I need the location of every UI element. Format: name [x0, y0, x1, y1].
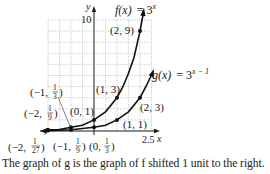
svg-text:1: 1: [48, 104, 52, 113]
svg-text:3: 3: [53, 92, 57, 101]
x-axis-label: x: [156, 133, 162, 144]
point-label-g-2: (2, 3): [140, 101, 164, 114]
svg-text:9: 9: [48, 113, 52, 122]
svg-text:27: 27: [32, 146, 40, 155]
g-function-label: g(x)= 3x − 1: [152, 67, 209, 82]
svg-text:(−1,: (−1,: [53, 140, 71, 153]
svg-text:1: 1: [105, 137, 109, 146]
svg-text:): ): [111, 140, 115, 153]
point-label-f-neg2: (−2, 1 9 ): [24, 104, 58, 122]
y-axis-arrow-icon: [92, 6, 96, 12]
point-label-f-0: (0, 1): [70, 105, 94, 118]
svg-text:1: 1: [53, 83, 57, 92]
svg-text:): ): [41, 141, 45, 154]
point-label-f-2: (2, 9): [110, 24, 134, 37]
grid: [48, 20, 152, 131]
point-label-g-neg2: (−2, 1 27 ): [8, 137, 45, 155]
f-function-label: f(x)= 3x: [115, 2, 156, 17]
svg-text:(−2,: (−2,: [24, 107, 42, 120]
svg-text:1: 1: [76, 137, 80, 146]
x-tick-2-5: 2.5: [142, 134, 155, 145]
svg-text:): ): [82, 140, 86, 153]
svg-text:(0,: (0,: [89, 140, 101, 153]
svg-text:1: 1: [33, 137, 37, 146]
figure-caption: The graph of g is the graph of f shifted…: [2, 157, 265, 170]
point-label-f-1: (1, 3): [96, 83, 120, 96]
svg-text:(−1,: (−1,: [30, 86, 48, 99]
exponential-graph: y 10 2.5 x f(x)= 3x g(x)= 3x − 1 (2, 9) …: [0, 0, 270, 174]
svg-text:): ): [59, 86, 63, 99]
y-axis-label: y: [85, 1, 91, 12]
point-label-g-0: (0, 1 3 ): [89, 137, 115, 155]
point-label-g-neg1: (−1, 1 9 ): [53, 137, 86, 155]
point-label-g-1: (1, 1): [123, 118, 147, 131]
svg-text:): ): [54, 107, 58, 120]
svg-text:3: 3: [105, 146, 109, 155]
point-label-f-neg1: (−1, 1 3 ): [30, 83, 63, 101]
svg-text:(−2,: (−2,: [8, 141, 26, 154]
y-tick-10: 10: [81, 14, 92, 25]
svg-text:9: 9: [76, 146, 80, 155]
